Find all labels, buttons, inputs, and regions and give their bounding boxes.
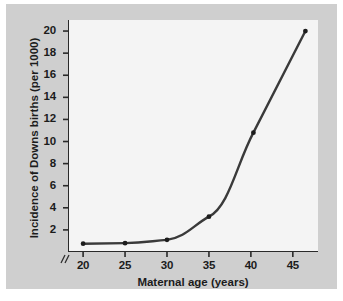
y-axis-title: Incidence of Downs births (per 1000) bbox=[28, 22, 40, 254]
figure-container: 2468101214161820 202530354045 Maternal a… bbox=[0, 0, 343, 301]
x-axis-ticks bbox=[83, 252, 293, 257]
figure-panel-inner: 2468101214161820 202530354045 Maternal a… bbox=[6, 4, 337, 289]
data-line bbox=[83, 31, 305, 244]
x-tick-label: 30 bbox=[152, 259, 182, 271]
x-tick-label: 25 bbox=[110, 259, 140, 271]
x-tick-label: 20 bbox=[68, 259, 98, 271]
x-axis-title: Maternal age (years) bbox=[68, 276, 318, 288]
y-axis-ticks bbox=[63, 31, 68, 230]
figure-panel: 2468101214161820 202530354045 Maternal a… bbox=[6, 4, 337, 289]
x-tick-label: 40 bbox=[236, 259, 266, 271]
x-tick-label: 45 bbox=[278, 259, 308, 271]
data-point-markers bbox=[81, 29, 308, 246]
chart-svg bbox=[6, 4, 343, 301]
x-tick-label: 35 bbox=[194, 259, 224, 271]
